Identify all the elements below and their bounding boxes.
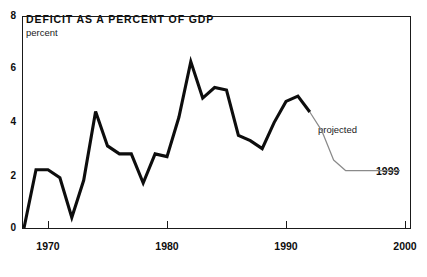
axes-group (22, 16, 411, 229)
chart-container: DEFICIT AS A PERCENT OF GDP percent 8 6 … (0, 0, 427, 277)
data-series-group (24, 62, 400, 228)
series-actual-line (24, 62, 310, 228)
series-projected-line (310, 112, 400, 171)
x-tick-marks (49, 221, 406, 228)
chart-plot-area (0, 0, 427, 277)
